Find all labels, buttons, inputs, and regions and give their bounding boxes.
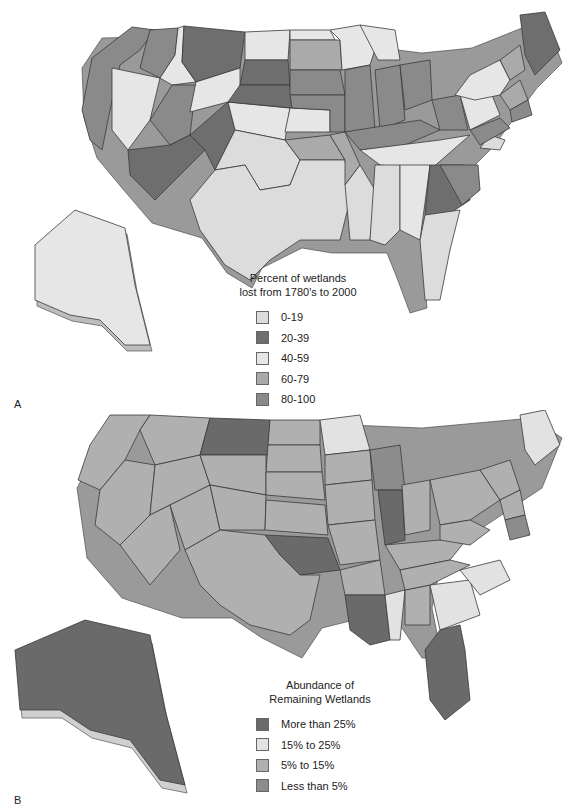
swatch-20-39 bbox=[256, 331, 269, 344]
map-panel-b: B Abundance of Remaining Wetlands More t… bbox=[0, 410, 579, 809]
legend-item: 40-59 bbox=[256, 348, 358, 369]
swatch-15-to-25 bbox=[256, 738, 269, 751]
swatch-0-19 bbox=[256, 311, 269, 324]
legend-item: 20-39 bbox=[256, 328, 358, 349]
legend-item: 5% to 15% bbox=[256, 755, 390, 776]
legend-item: More than 25% bbox=[256, 714, 390, 735]
swatch-80-100 bbox=[256, 393, 269, 406]
swatch-60-79 bbox=[256, 372, 269, 385]
panel-label-b: B bbox=[14, 794, 21, 806]
swatch-5-to-15 bbox=[256, 759, 269, 772]
legend-remaining-wetlands: Abundance of Remaining Wetlands More tha… bbox=[250, 678, 390, 796]
legend-title: Percent of wetlands lost from 1780's to … bbox=[238, 271, 358, 299]
legend-wetland-loss: Percent of wetlands lost from 1780's to … bbox=[238, 271, 358, 410]
legend-item: 80-100 bbox=[256, 389, 358, 410]
swatch-more-than-25 bbox=[256, 718, 269, 731]
legend-item: 15% to 25% bbox=[256, 735, 390, 756]
legend-item: 0-19 bbox=[256, 307, 358, 328]
map-panel-a: A Percent of wetlands lost from 1780's t… bbox=[0, 0, 579, 410]
legend-title: Abundance of Remaining Wetlands bbox=[250, 678, 390, 706]
legend-item: 60-79 bbox=[256, 369, 358, 390]
swatch-40-59 bbox=[256, 352, 269, 365]
legend-item: Less than 5% bbox=[256, 776, 390, 797]
swatch-less-than-5 bbox=[256, 779, 269, 792]
